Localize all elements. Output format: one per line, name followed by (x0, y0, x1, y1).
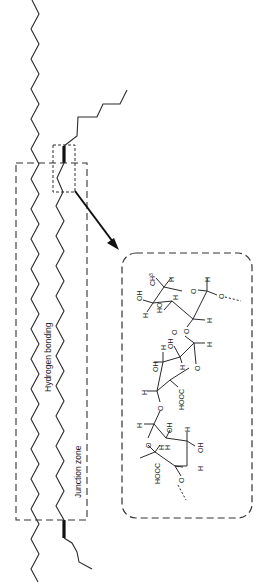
zoom-arrow (75, 191, 113, 242)
o-glycosidic-label: O (178, 477, 185, 483)
h-label: H (160, 345, 167, 350)
oh-label: OH (197, 443, 204, 454)
h-label: H (179, 365, 186, 370)
ho-label: HO (156, 302, 163, 313)
hooc-label: HOOC (154, 463, 161, 484)
h-label: H (197, 466, 204, 471)
h-label: H (204, 277, 211, 282)
o-glycosidic-label: O (183, 328, 190, 334)
left-polymer-chain (31, 0, 39, 582)
o-ring-label: O (190, 288, 197, 294)
h-label: H (168, 277, 175, 282)
sugar-ring-1 (143, 278, 241, 327)
h-label: H (142, 313, 149, 318)
o-link-label: O (218, 293, 225, 299)
o-ring-label: O (145, 442, 152, 448)
arrowhead-icon (107, 238, 119, 250)
h-label: H (206, 318, 213, 323)
h-label: H (172, 295, 179, 300)
h-label: H (206, 342, 213, 347)
junction-zone-label: Junction zone (73, 445, 83, 498)
hydrogen-bonding-label: Hydrogen bonding (43, 322, 53, 392)
o-ring-label: O (194, 365, 201, 371)
hooc-label: HOOC (178, 389, 185, 410)
h-label: H (136, 423, 143, 428)
oh-label: OH (136, 291, 143, 302)
h-label: H (164, 445, 171, 450)
o-label: O (171, 329, 178, 335)
right-polymer-chain (56, 163, 64, 520)
junction-zone-diagram: Hydrogen bonding Junction zone CH3 H O H… (0, 0, 262, 588)
ch3-label: CH3 (148, 273, 156, 286)
oh-label: OH (166, 423, 173, 434)
right-chain-bottom-tail (64, 538, 92, 569)
oh-label: OH (152, 362, 159, 373)
right-chain-top-tail (64, 90, 127, 146)
oh-label: OH (167, 339, 174, 350)
o-glycosidic-label: O (157, 405, 164, 411)
h-label: H (141, 390, 148, 395)
h-label: H (184, 427, 191, 432)
